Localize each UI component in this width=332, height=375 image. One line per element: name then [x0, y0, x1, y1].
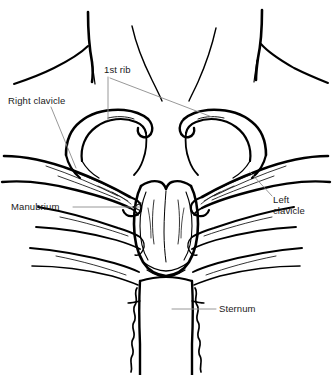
sternum-body — [128, 277, 204, 375]
label-left-clavicle: Leftclavicle — [273, 194, 305, 216]
costal-cartilages — [30, 207, 302, 285]
anatomy-figure: 1st rib Right clavicle Manubrium Leftcla… — [0, 0, 332, 375]
label-first-rib: 1st rib — [104, 64, 131, 75]
first-rib-pair — [66, 110, 266, 178]
label-left-clavicle-line1: Left — [273, 194, 289, 205]
label-left-clavicle-line2: clavicle — [273, 205, 305, 216]
label-manubrium: Manubrium — [11, 201, 59, 212]
neck-soft-tissue-contours — [14, 10, 328, 101]
anatomy-line-drawing — [0, 0, 332, 375]
label-sternum: Sternum — [219, 303, 256, 314]
label-right-clavicle: Right clavicle — [8, 95, 65, 106]
manubrium — [134, 181, 198, 277]
leader-right-clavicle — [51, 107, 76, 168]
wavy-cartilage-borders — [131, 288, 201, 372]
